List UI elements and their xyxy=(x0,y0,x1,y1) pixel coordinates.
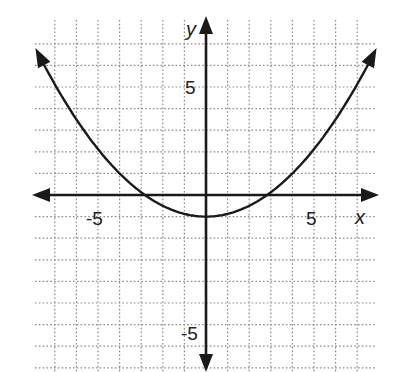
x-axis-right-arrow-icon xyxy=(361,188,379,202)
curve-left-arrow-icon xyxy=(35,48,50,68)
x-tick-label-pos5: 5 xyxy=(306,208,317,229)
y-axis-up-arrow-icon xyxy=(199,16,213,34)
curve-right-arrow-icon xyxy=(362,48,377,68)
y-tick-label-neg5: -5 xyxy=(181,323,198,344)
coordinate-plane-chart: y x -5 5 5 -5 xyxy=(0,0,395,372)
y-axis-down-arrow-icon xyxy=(199,354,213,372)
x-tick-label-neg5: -5 xyxy=(86,208,103,229)
axes xyxy=(32,16,379,372)
y-tick-label-pos5: 5 xyxy=(185,77,196,98)
x-axis-left-arrow-icon xyxy=(32,188,50,202)
y-axis-label: y xyxy=(184,18,197,40)
x-axis-label: x xyxy=(354,206,366,228)
